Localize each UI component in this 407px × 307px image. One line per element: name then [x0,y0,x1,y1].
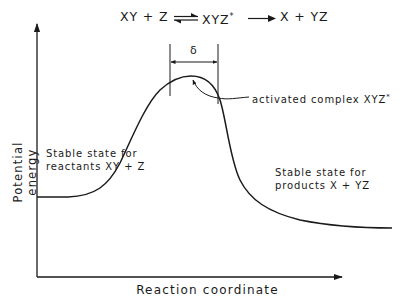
equation-products: X + YZ [280,11,329,23]
activated-complex-star: * [229,12,234,21]
reactants-label-line2: reactants XY + Z [46,161,145,173]
products-label-line1: Stable state for [275,167,367,179]
equilibrium-arrow-icon [174,13,198,24]
equation-activated-complex: XYZ* [202,11,234,26]
activated-complex-label: activated complex XYZ* [252,91,391,106]
activated-complex-label-star: * [386,93,390,101]
products-label-line2: products X + YZ [275,180,370,192]
activated-complex-formula: XYZ [202,12,229,27]
activated-complex-text: activated complex XYZ [252,94,386,105]
y-axis-label: Potential energy [11,117,39,227]
reactants-label-line1: Stable state for [46,148,138,160]
forward-arrow-icon [248,15,276,22]
activated-complex-leader [193,80,249,99]
delta-label: δ [190,45,198,57]
equation-reactants: XY + Z [120,11,169,23]
x-axis-label: Reaction coordinate [0,283,407,297]
